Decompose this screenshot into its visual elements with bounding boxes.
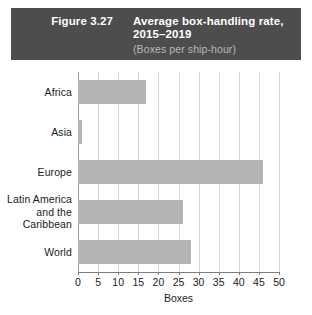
- bar-row: [78, 112, 279, 152]
- x-tick-label-0: 0: [75, 276, 81, 288]
- x-tick-label-35: 35: [213, 276, 225, 288]
- x-tick-label-50: 50: [273, 276, 285, 288]
- bar-asia: [78, 120, 82, 144]
- bar-row: [78, 152, 279, 192]
- category-label-world: World: [0, 246, 72, 259]
- x-tick-mark-30: [199, 272, 200, 275]
- category-label-latin-america-and-the-caribbean: Latin Americaand theCaribbean: [0, 193, 72, 231]
- x-tick-mark-25: [179, 272, 180, 275]
- x-tick-mark-0: [78, 272, 79, 275]
- bar-chart: AfricaAsiaEuropeLatin Americaand theCari…: [0, 68, 312, 315]
- x-axis-tick-labels: 05101520253035404550: [0, 276, 312, 290]
- x-tick-mark-5: [98, 272, 99, 275]
- figure-number-label: Figure 3.27: [11, 15, 115, 28]
- bar-europe: [78, 160, 263, 184]
- bar-world: [78, 240, 191, 264]
- x-tick-mark-40: [239, 272, 240, 275]
- category-label-asia: Asia: [0, 126, 72, 139]
- figure-header-inner: Figure 3.27 Average box-handling rate, 2…: [11, 15, 293, 56]
- category-label-europe: Europe: [0, 166, 72, 179]
- category-axis-labels: AfricaAsiaEuropeLatin Americaand theCari…: [0, 72, 72, 272]
- x-tick-mark-10: [118, 272, 119, 275]
- x-tick-mark-20: [158, 272, 159, 275]
- x-tick-label-10: 10: [112, 276, 124, 288]
- bar-row: [78, 72, 279, 112]
- bar-row: [78, 192, 279, 232]
- x-tick-mark-15: [138, 272, 139, 275]
- gridline-50: [279, 72, 280, 272]
- x-tick-label-5: 5: [95, 276, 101, 288]
- x-tick-label-20: 20: [153, 276, 165, 288]
- figure-header-banner: Figure 3.27 Average box-handling rate, 2…: [11, 8, 301, 60]
- x-tick-mark-35: [219, 272, 220, 275]
- plot-area: [78, 72, 279, 272]
- x-tick-label-15: 15: [132, 276, 144, 288]
- x-tick-label-45: 45: [253, 276, 265, 288]
- figure-subtitle-units: (Boxes per ship-hour): [133, 41, 293, 56]
- figure-title-group: Average box-handling rate, 2015–2019 (Bo…: [115, 15, 293, 56]
- x-tick-label-25: 25: [173, 276, 185, 288]
- x-tick-label-30: 30: [193, 276, 205, 288]
- bar-row: [78, 232, 279, 272]
- bar-series: [78, 72, 279, 272]
- category-label-africa: Africa: [0, 86, 72, 99]
- x-tick-mark-45: [259, 272, 260, 275]
- figure-title: Average box-handling rate, 2015–2019: [133, 15, 293, 41]
- bar-africa: [78, 80, 146, 104]
- x-tick-label-40: 40: [233, 276, 245, 288]
- x-tick-mark-50: [279, 272, 280, 275]
- bar-latin-america-and-the-caribbean: [78, 200, 183, 224]
- x-axis-title: Boxes: [78, 292, 279, 304]
